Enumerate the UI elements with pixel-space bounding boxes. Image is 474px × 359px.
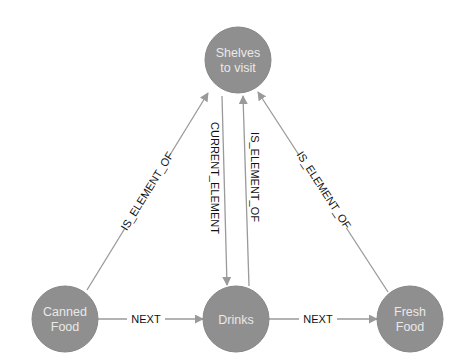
node-circle bbox=[32, 286, 98, 352]
node-label-line2: Food bbox=[51, 320, 80, 334]
edge-shelves-current-element-drinks[interactable]: CURRENT_ELEMENT bbox=[208, 96, 227, 285]
edge-drinks-is-element-of-shelves[interactable]: IS_ELEMENT_OF bbox=[243, 96, 262, 286]
node-shelves-to-visit[interactable]: Shelves to visit bbox=[205, 27, 271, 93]
node-circle bbox=[377, 286, 443, 352]
edge-label: NEXT bbox=[303, 313, 333, 325]
graph-diagram: IS_ELEMENT_OF CURRENT_ELEMENT IS_ELEMENT… bbox=[0, 0, 474, 359]
edge-canned-is-element-of-shelves[interactable]: IS_ELEMENT_OF bbox=[87, 93, 208, 290]
edge-canned-next-drinks[interactable]: NEXT bbox=[98, 312, 203, 326]
node-label-line2: to visit bbox=[220, 61, 256, 75]
node-fresh-food[interactable]: Fresh Food bbox=[377, 286, 443, 352]
node-label-line2: Food bbox=[396, 320, 425, 334]
edge-label: CURRENT_ELEMENT bbox=[209, 122, 221, 234]
edge-label: IS_ELEMENT_OF bbox=[294, 149, 353, 231]
edge-label: IS_ELEMENT_OF bbox=[249, 132, 261, 222]
node-canned-food[interactable]: Canned Food bbox=[32, 286, 98, 352]
edge-label: NEXT bbox=[131, 313, 161, 325]
node-label-line1: Canned bbox=[43, 305, 87, 319]
edge-label: IS_ELEMENT_OF bbox=[118, 149, 175, 232]
node-label-line1: Fresh bbox=[394, 305, 426, 319]
node-drinks[interactable]: Drinks bbox=[203, 286, 269, 352]
edge-line bbox=[222, 96, 227, 285]
node-circle bbox=[205, 27, 271, 93]
node-label-line1: Drinks bbox=[218, 313, 253, 327]
node-label-line1: Shelves bbox=[216, 46, 260, 60]
edge-fresh-is-element-of-shelves[interactable]: IS_ELEMENT_OF bbox=[258, 92, 388, 292]
edge-drinks-next-fresh[interactable]: NEXT bbox=[269, 312, 377, 326]
